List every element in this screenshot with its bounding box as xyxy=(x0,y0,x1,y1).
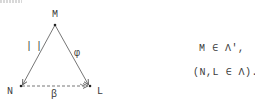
vertex-l-dot xyxy=(89,85,92,88)
edge-label-beta: β xyxy=(51,90,57,100)
diagram-arrows xyxy=(0,0,130,102)
edge-label-norm: | | xyxy=(26,42,41,52)
vertex-label-n: N xyxy=(7,87,13,97)
vertex-label-m: M xyxy=(52,10,58,20)
relation-m-in-lambda-prime: M ∈ Λ', xyxy=(199,43,245,55)
vertex-n-dot xyxy=(20,85,23,88)
vertex-label-l: L xyxy=(97,87,103,97)
relation-n-l-in-lambda: (N,L ∈ Λ). xyxy=(193,67,255,79)
vertex-m-dot xyxy=(54,24,57,27)
edge-label-phi: φ xyxy=(74,49,80,59)
arrow-m-to-n xyxy=(23,25,55,84)
arrow-m-to-l xyxy=(55,25,88,84)
commutative-triangle-diagram: M N L | | φ β xyxy=(0,0,130,102)
